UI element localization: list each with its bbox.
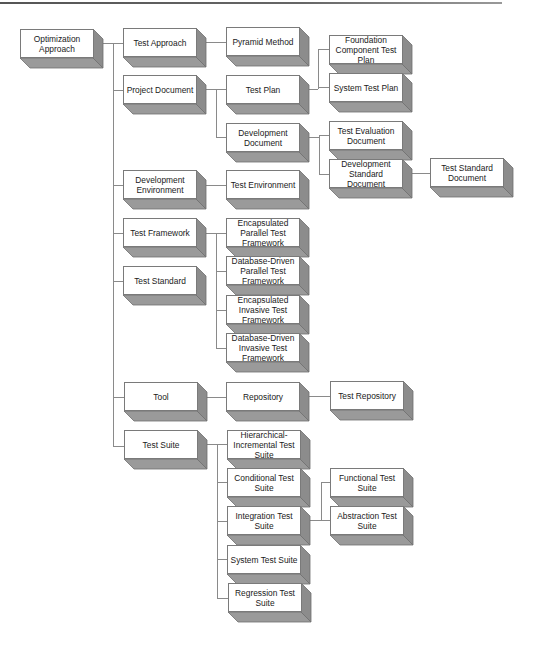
node-label: Foundation Component Test Plan (329, 35, 403, 64)
node-database-driven-parallel-test-framework: Database-Driven Parallel Test Framework (226, 256, 300, 285)
node-label: Encapsulated Parallel Test Framework (226, 218, 300, 247)
node-label: Test Standard Document (430, 158, 504, 187)
connector-line (113, 43, 123, 44)
node-abstraction-test-suite: Abstraction Test Suite (330, 506, 404, 535)
node-label: Development Environment (123, 170, 197, 199)
node-label: Regression Test Suite (228, 583, 302, 612)
connector-line (216, 137, 226, 138)
node-label: Integration Test Suite (227, 506, 301, 535)
node-label: Functional Test Suite (330, 468, 404, 497)
node-label: Test Approach (123, 28, 197, 57)
node-encapsulated-parallel-test-framework: Encapsulated Parallel Test Framework (226, 218, 300, 247)
node-repository: Repository (226, 382, 300, 411)
node-label: Test Framework (123, 218, 197, 247)
node-test-framework: Test Framework (123, 218, 197, 247)
connector-line (318, 49, 319, 89)
node-label: Encapsulated Invasive Test Framework (226, 295, 300, 324)
node-functional-test-suite: Functional Test Suite (330, 468, 404, 497)
node-system-test-suite: System Test Suite (227, 545, 301, 574)
connector-line (217, 521, 227, 522)
node-label: Development Standard Document (329, 159, 403, 188)
node-label: Hierarchical-Incremental Test Suite (227, 430, 301, 459)
connector-line (216, 89, 217, 137)
node-encapsulated-invasive-test-framework: Encapsulated Invasive Test Framework (226, 295, 300, 324)
node-label: Tool (124, 382, 198, 411)
node-test-plan: Test Plan (226, 75, 300, 104)
connector-line (321, 482, 322, 520)
connector-line (216, 233, 226, 234)
connector-line (319, 174, 329, 175)
node-foundation-component-test-plan: Foundation Component Test Plan (329, 35, 403, 64)
connector-line (217, 482, 227, 483)
node-test-standard-document: Test Standard Document (430, 158, 504, 187)
node-test-evaluation-document: Test Evaluation Document (329, 121, 403, 150)
node-pyramid-method: Pyramid Method (226, 27, 300, 56)
connector-line (216, 310, 226, 311)
node-label: Optimization Approach (20, 29, 94, 58)
node-label: Test Environment (226, 170, 300, 199)
node-label: Pyramid Method (226, 27, 300, 56)
node-regression-test-suite: Regression Test Suite (228, 583, 302, 612)
node-integration-test-suite: Integration Test Suite (227, 506, 301, 535)
node-test-repository: Test Repository (330, 381, 404, 410)
node-label: Database-Driven Parallel Test Framework (226, 256, 300, 285)
connector-line (321, 520, 330, 521)
connector-line (217, 444, 227, 445)
node-label: Conditional Test Suite (227, 468, 301, 497)
node-system-test-plan: System Test Plan (329, 73, 403, 102)
node-label: Test Evaluation Document (329, 121, 403, 150)
node-database-driven-invasive-test-framework: Database-Driven Invasive Test Framework (226, 333, 300, 362)
node-development-document: Development Document (226, 123, 300, 152)
connector-line (113, 281, 123, 282)
node-label: Test Suite (124, 430, 198, 459)
connector-line (319, 135, 329, 136)
node-label: Development Document (226, 123, 300, 152)
node-label: Abstraction Test Suite (330, 506, 404, 535)
node-label: System Test Plan (329, 73, 403, 102)
node-test-approach: Test Approach (123, 28, 197, 57)
connector-line (216, 271, 226, 272)
connector-line (216, 233, 217, 348)
node-development-environment: Development Environment (123, 170, 197, 199)
optimization-approach-tree-diagram: Optimization Approach Test Approach Proj… (0, 0, 533, 647)
connector-line (113, 90, 123, 91)
node-label: Test Repository (330, 381, 404, 410)
node-optimization-approach: Optimization Approach (20, 29, 94, 58)
node-development-standard-document: Development Standard Document (329, 159, 403, 188)
connector-line (113, 397, 124, 398)
node-conditional-test-suite: Conditional Test Suite (227, 468, 301, 497)
node-label: System Test Suite (227, 545, 301, 574)
node-test-suite: Test Suite (124, 430, 198, 459)
connector-line (217, 598, 228, 599)
connector-line (216, 348, 226, 349)
connector-line (321, 482, 330, 483)
node-test-environment: Test Environment (226, 170, 300, 199)
node-label: Project Document (123, 75, 197, 104)
node-test-standard: Test Standard (123, 266, 197, 295)
node-label: Test Standard (123, 266, 197, 295)
node-tool: Tool (124, 382, 198, 411)
node-project-document: Project Document (123, 75, 197, 104)
connector-line (319, 135, 320, 174)
connector-line (113, 185, 123, 186)
connector-line (318, 49, 329, 50)
connector-line (113, 43, 114, 446)
node-label: Database-Driven Invasive Test Framework (226, 333, 300, 362)
node-label: Test Plan (226, 75, 300, 104)
node-hierarchical-incremental-test-suite: Hierarchical-Incremental Test Suite (227, 430, 301, 459)
connector-line (217, 559, 227, 560)
connector-line (318, 87, 329, 88)
node-label: Repository (226, 382, 300, 411)
connector-line (113, 233, 123, 234)
connector-line (113, 446, 124, 447)
